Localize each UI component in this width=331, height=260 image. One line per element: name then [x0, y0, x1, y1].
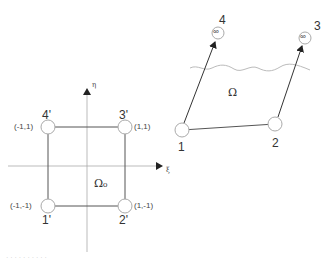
- node-3-label: 3: [314, 20, 321, 32]
- node-1: [175, 123, 189, 137]
- node-2: [268, 117, 282, 131]
- node-2-label: 2: [272, 137, 279, 149]
- node-4-label: 4: [219, 14, 226, 26]
- reference-square: [48, 127, 125, 206]
- node-2prime-label: 2': [119, 214, 128, 226]
- node-1prime-coord: (-1,-1): [10, 202, 32, 210]
- node-3prime: [118, 120, 132, 134]
- node-1prime-label: 1': [42, 214, 51, 226]
- cutoff-caption: · · · · · · · · · ·: [6, 254, 47, 260]
- reference-nodes: [41, 120, 132, 213]
- omega-zero-label: Ω₀: [94, 178, 108, 189]
- node-4prime-label: 4': [42, 109, 51, 121]
- node-1prime: [41, 199, 55, 213]
- eta-label: η: [92, 82, 96, 89]
- edge-1-4-arrow: [184, 42, 215, 123]
- wavy-boundary: [190, 64, 310, 71]
- edge-1-2: [182, 124, 275, 130]
- edge-2-3-arrow: [278, 46, 302, 117]
- omega-label: Ω: [228, 87, 237, 98]
- node-1-label: 1: [178, 141, 185, 153]
- infinity-icon-node-3: ∞: [300, 33, 306, 41]
- node-2prime-coord: (1,-1): [134, 202, 153, 210]
- infinity-icon-node-4: ∞: [213, 28, 219, 36]
- infinite-element-mapping-diagram: η ξ Ω₀ 4' 3' 1' 2' (-1,1) (1,1) (-1,-1) …: [0, 0, 331, 260]
- node-4prime: [41, 120, 55, 134]
- physical-nodes: [175, 27, 311, 137]
- xi-label: ξ: [166, 167, 170, 174]
- node-3prime-label: 3': [119, 109, 128, 121]
- node-2prime: [118, 199, 132, 213]
- node-3prime-coord: (1,1): [134, 123, 150, 131]
- node-4prime-coord: (-1,1): [14, 123, 33, 131]
